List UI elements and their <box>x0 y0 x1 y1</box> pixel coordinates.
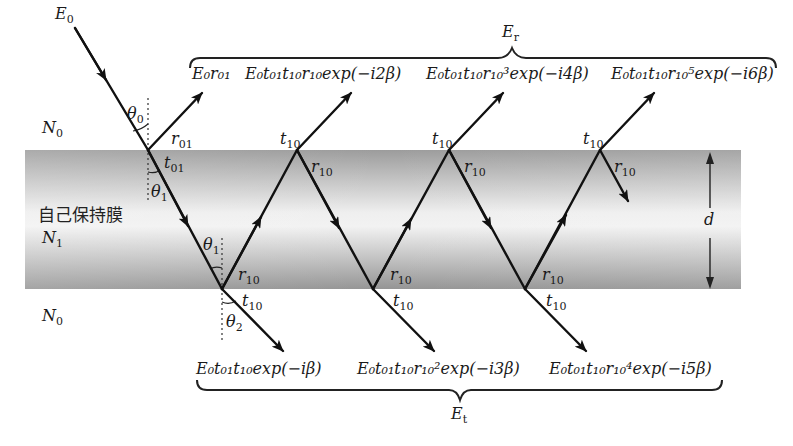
reflected-term-3: E₀t₀₁t₁₀r₁₀³exp(−i4β) <box>426 66 589 82</box>
t10-top-1: t10 <box>280 131 300 150</box>
theta0-label: θ0 <box>127 106 144 125</box>
medium-bottom-label: N0 <box>42 308 63 327</box>
theta1-bottom-label: θ1 <box>203 237 220 256</box>
incident-label: E0 <box>55 6 74 25</box>
r10-bottom-3: r10 <box>542 267 564 286</box>
t10-top-3: t10 <box>583 131 603 150</box>
r10-bottom-2: r10 <box>390 267 412 286</box>
r10-bottom-1: r10 <box>238 267 260 286</box>
thickness-label: d <box>704 212 714 228</box>
t01-label: t01 <box>164 155 184 174</box>
t10-top-2: t10 <box>432 131 452 150</box>
t10-bottom-1: t10 <box>242 293 262 312</box>
transmitted-term-1: E₀t₀₁t₁₀exp(−iβ) <box>196 361 322 377</box>
transmitted-brace <box>197 380 722 400</box>
transmitted-group-label: Et <box>451 406 467 425</box>
reflected-term-4: E₀t₀₁t₁₀r₁₀⁵exp(−i6β) <box>611 66 774 82</box>
theta1-top-label: θ1 <box>151 184 168 203</box>
theta2-label: θ2 <box>226 314 243 333</box>
film-name-label: 自己保持膜 <box>38 201 123 226</box>
reflected-term-2: E₀t₀₁t₁₀r₁₀exp(−i2β) <box>245 66 401 82</box>
r10-top-3: r10 <box>614 159 636 178</box>
r10-top-2: r10 <box>464 159 486 178</box>
r01-label: r01 <box>171 131 193 150</box>
t10-bottom-2: t10 <box>393 293 413 312</box>
transmitted-term-2: E₀t₀₁t₁₀r₁₀²exp(−i3β) <box>357 361 520 377</box>
film-index-label: N1 <box>42 230 63 249</box>
medium-top-label: N0 <box>42 120 63 139</box>
reflected-term-1: E₀r₀₁ <box>192 66 231 82</box>
reflected-group-label: Er <box>502 24 519 43</box>
r10-top-1: r10 <box>311 159 333 178</box>
transmitted-term-3: E₀t₀₁t₁₀r₁₀⁴exp(−i5β) <box>549 361 712 377</box>
t10-bottom-3: t10 <box>546 293 566 312</box>
